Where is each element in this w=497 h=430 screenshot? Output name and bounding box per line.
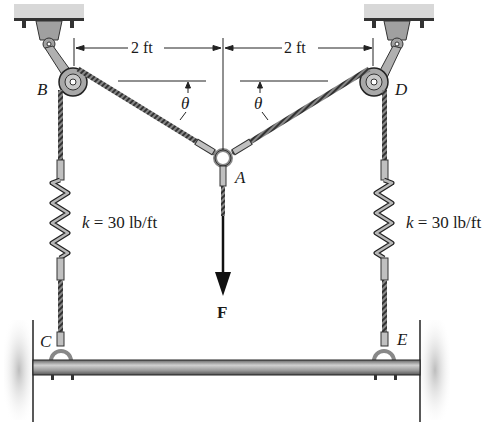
label-F: F xyxy=(217,303,227,322)
label-B: B xyxy=(37,80,48,99)
spring-label-left: k = 30 lb/ft xyxy=(82,213,157,232)
ring-A xyxy=(215,150,231,166)
statics-diagram: 2 ft 2 ft θ θ B D A C E F k = 30 lb/ft k… xyxy=(0,0,497,430)
label-A: A xyxy=(234,168,246,187)
wall-right xyxy=(420,320,450,422)
label-D: D xyxy=(394,80,408,99)
label-C: C xyxy=(40,332,52,351)
spring-left xyxy=(52,180,68,258)
support-bar xyxy=(33,360,420,375)
theta-left: θ xyxy=(181,94,189,113)
label-E: E xyxy=(396,330,408,349)
wall-left xyxy=(4,320,34,422)
force-arrow-icon xyxy=(215,272,231,296)
dim-label-left: 2 ft xyxy=(131,39,153,56)
cable-BA xyxy=(78,69,215,153)
dim-label-right: 2 ft xyxy=(284,39,306,56)
cable-DA xyxy=(232,69,369,153)
force-rope xyxy=(221,186,225,216)
spring-right xyxy=(376,180,392,258)
force-connector xyxy=(220,166,226,186)
theta-right: θ xyxy=(254,94,262,113)
spring-label-right: k = 30 lb/ft xyxy=(406,213,481,232)
